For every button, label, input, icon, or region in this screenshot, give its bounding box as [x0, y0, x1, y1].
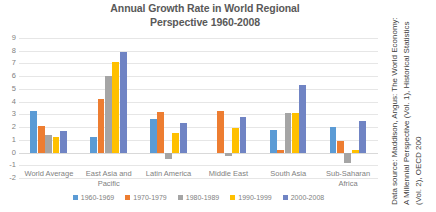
- chart-legend: 1960-19691970-19791980-19891990-19992000…: [19, 194, 378, 201]
- bar[interactable]: [217, 111, 224, 153]
- bar[interactable]: [45, 135, 52, 153]
- bar[interactable]: [98, 99, 105, 152]
- bar[interactable]: [299, 85, 306, 152]
- y-axis-tick-label: 3: [12, 111, 16, 119]
- legend-label: 1960-1969: [81, 194, 114, 201]
- bar[interactable]: [352, 150, 359, 153]
- bar[interactable]: [225, 153, 232, 157]
- legend-swatch-icon: [73, 195, 78, 200]
- bar-cluster: [258, 38, 318, 178]
- y-axis-tick-label: 2: [12, 123, 16, 131]
- y-axis-tick-label: 4: [12, 98, 16, 106]
- bar[interactable]: [105, 76, 112, 152]
- category-label-line: Pacific: [79, 179, 139, 189]
- source-note-line-1: Data source: Maddison, Angus: The World …: [391, 17, 399, 205]
- category-label-line: Middle East: [199, 169, 259, 179]
- bar[interactable]: [30, 111, 37, 153]
- y-axis-tick-label: 8: [12, 47, 16, 55]
- category-label-5: South Asia: [258, 169, 318, 179]
- legend-swatch-icon: [178, 195, 183, 200]
- bar[interactable]: [270, 130, 277, 153]
- category-label-line: Latin America: [139, 169, 199, 179]
- bar[interactable]: [285, 113, 292, 152]
- chart-title-line-2: Perspective 1960-2008: [30, 16, 380, 30]
- legend-item-1980-1989[interactable]: 1980-1989: [178, 194, 219, 201]
- category-label-3: Latin America: [139, 169, 199, 179]
- bar[interactable]: [180, 123, 187, 152]
- bar[interactable]: [53, 137, 60, 152]
- category-label-2: East Asia andPacific: [79, 169, 139, 188]
- bar[interactable]: [90, 137, 97, 152]
- legend-swatch-icon: [230, 195, 235, 200]
- bar-cluster: [79, 38, 139, 178]
- y-axis-tick-label: 5: [12, 85, 16, 93]
- legend-swatch-icon: [283, 195, 288, 200]
- legend-item-2000-2008[interactable]: 2000-2008: [283, 194, 324, 201]
- bar[interactable]: [337, 141, 344, 152]
- category-label-1: World Average: [19, 169, 79, 179]
- bar-cluster: [199, 38, 259, 178]
- category-label-4: Middle East: [199, 169, 259, 179]
- bar[interactable]: [344, 153, 351, 163]
- category-label-6: Sub-SaharanAfrica: [318, 169, 378, 188]
- legend-label: 1990-1999: [238, 194, 271, 201]
- y-axis-tick-label: -2: [9, 174, 16, 182]
- bar[interactable]: [232, 128, 239, 152]
- category-label-line: Africa: [318, 179, 378, 189]
- legend-item-1960-1969[interactable]: 1960-1969: [73, 194, 114, 201]
- bar[interactable]: [38, 126, 45, 153]
- bar[interactable]: [240, 117, 247, 153]
- y-axis-tick-label: 1: [12, 136, 16, 144]
- bar-cluster: [318, 38, 378, 178]
- bar[interactable]: [112, 62, 119, 152]
- source-note-line-2: A Millennial Perspective (Vol. 1), Histo…: [403, 21, 411, 205]
- chart-title: Annual Growth Rate in World Regional Per…: [30, 2, 380, 29]
- legend-item-1970-1979[interactable]: 1970-1979: [125, 194, 166, 201]
- bar[interactable]: [359, 121, 366, 153]
- plot-area: 9876543210-1-2: [19, 38, 378, 178]
- bar[interactable]: [60, 131, 67, 153]
- legend-label: 1980-1989: [186, 194, 219, 201]
- legend-label: 1970-1979: [133, 194, 166, 201]
- bar-cluster: [19, 38, 79, 178]
- y-axis-tick-label: 6: [12, 72, 16, 80]
- legend-swatch-icon: [125, 195, 130, 200]
- category-label-line: World Average: [19, 169, 79, 179]
- chart-title-line-1: Annual Growth Rate in World Regional: [30, 2, 380, 16]
- bar-cluster: [139, 38, 199, 178]
- y-axis-tick-label: 0: [12, 149, 16, 157]
- chart-container: Annual Growth Rate in World Regional Per…: [0, 0, 436, 212]
- category-label-line: South Asia: [258, 169, 318, 179]
- y-axis-tick-label: 9: [12, 34, 16, 42]
- bar[interactable]: [165, 153, 172, 159]
- legend-item-1990-1999[interactable]: 1990-1999: [230, 194, 271, 201]
- bar[interactable]: [157, 112, 164, 153]
- bar[interactable]: [120, 52, 127, 153]
- bar[interactable]: [172, 133, 179, 152]
- source-note-line-3: (Vol. 2), OECD 200: [415, 137, 423, 205]
- bar[interactable]: [292, 113, 299, 152]
- legend-label: 2000-2008: [291, 194, 324, 201]
- category-label-line: East Asia and: [79, 169, 139, 179]
- y-axis-tick-label: 7: [12, 60, 16, 68]
- bar[interactable]: [330, 127, 337, 152]
- source-note: Data source: Maddison, Angus: The World …: [382, 0, 436, 212]
- category-label-line: Sub-Saharan: [318, 169, 378, 179]
- bar[interactable]: [150, 119, 157, 152]
- y-axis-tick-label: -1: [9, 162, 16, 170]
- bar[interactable]: [277, 150, 284, 153]
